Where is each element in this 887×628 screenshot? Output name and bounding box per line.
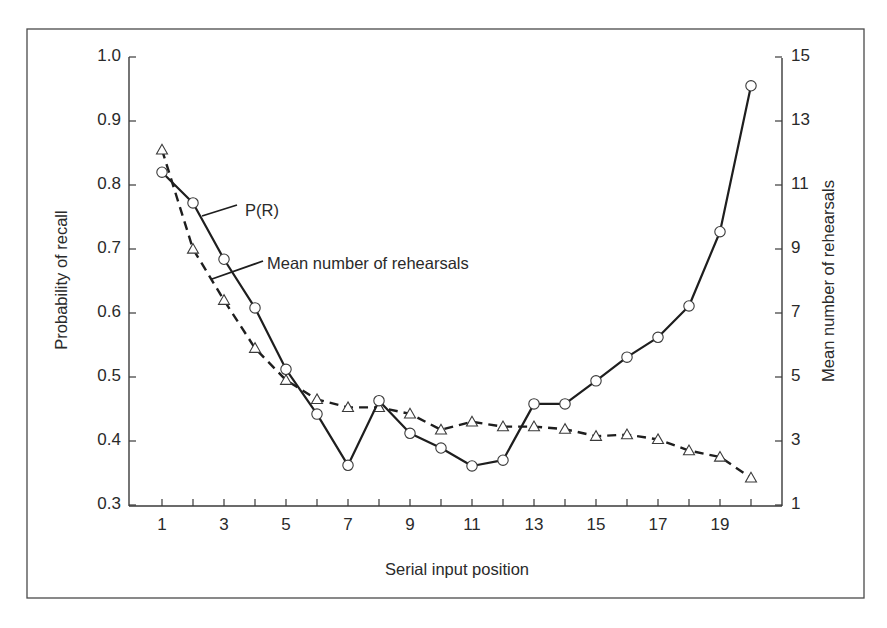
- chart-figure: 0.30.40.50.60.70.80.91.0 13579111315 135…: [0, 0, 887, 628]
- rehearsals-triangle-marker: [312, 394, 323, 404]
- left-y-axis-title: Probability of recall: [52, 210, 70, 349]
- right-y-tick-label: 7: [791, 302, 800, 321]
- left-y-tick-label: 0.9: [97, 110, 121, 129]
- annotations: P(R) Mean number of rehearsals: [202, 201, 469, 279]
- pr-circle-marker: [219, 254, 229, 264]
- right-y-tick-label: 5: [791, 366, 800, 385]
- x-ticks: 135791113151719: [157, 499, 751, 534]
- pr-circle-marker: [498, 455, 508, 465]
- pr-circle-markers: [157, 81, 756, 472]
- pr-annotation: P(R): [245, 201, 279, 219]
- pr-circle-marker: [653, 332, 663, 342]
- right-y-tick-label: 9: [791, 238, 800, 257]
- x-tick-label: 5: [281, 515, 290, 534]
- right-y-tick-label: 13: [791, 110, 810, 129]
- right-y-ticks: 13579111315: [775, 46, 810, 513]
- x-tick-label: 15: [587, 515, 606, 534]
- pr-circle-marker: [684, 301, 694, 311]
- pr-circle-marker: [436, 443, 446, 453]
- rehearsals-triangle-markers: [157, 144, 757, 482]
- pr-circle-marker: [374, 395, 384, 405]
- x-tick-label: 7: [343, 515, 352, 534]
- rehearsals-dashed-line: [162, 150, 751, 478]
- pr-circle-marker: [250, 303, 260, 313]
- pr-circle-marker: [188, 198, 198, 208]
- x-tick-label: 9: [405, 515, 414, 534]
- x-tick-label: 11: [463, 515, 481, 534]
- rehearsals-triangle-marker: [560, 424, 571, 434]
- right-y-tick-label: 3: [791, 430, 800, 449]
- x-tick-label: 3: [219, 515, 228, 534]
- left-y-ticks: 0.30.40.50.60.70.80.91.0: [97, 46, 136, 513]
- left-y-tick-label: 0.8: [97, 174, 121, 193]
- pr-circle-marker: [746, 81, 756, 91]
- x-tick-label: 19: [711, 515, 730, 534]
- x-tick-label: 1: [157, 515, 166, 534]
- rehearsals-triangle-marker: [188, 244, 199, 254]
- rehearsals-leader-line: [212, 261, 263, 279]
- series-probability-recall: [157, 81, 756, 472]
- pr-solid-line: [162, 86, 751, 466]
- left-y-tick-label: 0.3: [97, 494, 121, 513]
- right-y-axis-title: Mean number of rehearsals: [819, 180, 837, 382]
- left-y-tick-label: 0.4: [97, 430, 121, 449]
- left-y-tick-label: 0.5: [97, 366, 121, 385]
- pr-circle-marker: [405, 428, 415, 438]
- rehearsals-triangle-marker: [467, 416, 478, 426]
- pr-circle-marker: [157, 167, 167, 177]
- rehearsals-annotation: Mean number of rehearsals: [267, 254, 469, 272]
- rehearsals-triangle-marker: [157, 144, 168, 154]
- rehearsals-triangle-marker: [746, 472, 757, 482]
- pr-circle-marker: [560, 399, 570, 409]
- left-y-tick-label: 1.0: [97, 46, 121, 65]
- series-mean-rehearsals: [157, 144, 757, 482]
- pr-circle-marker: [343, 460, 353, 470]
- pr-circle-marker: [467, 461, 477, 471]
- right-y-tick-label: 15: [791, 46, 810, 65]
- pr-circle-marker: [622, 352, 632, 362]
- right-y-tick-label: 1: [791, 494, 800, 513]
- x-tick-label: 13: [525, 515, 544, 534]
- x-tick-label: 17: [649, 515, 668, 534]
- pr-circle-marker: [591, 376, 601, 386]
- pr-circle-marker: [281, 364, 291, 374]
- pr-circle-marker: [312, 409, 322, 419]
- axes: [129, 57, 782, 506]
- left-y-tick-label: 0.6: [97, 302, 121, 321]
- pr-leader-line: [202, 205, 237, 216]
- figure-frame: [27, 29, 864, 598]
- pr-circle-marker: [529, 399, 539, 409]
- left-y-tick-label: 0.7: [97, 238, 121, 257]
- pr-circle-marker: [715, 227, 725, 237]
- x-axis-title: Serial input position: [385, 560, 529, 578]
- right-y-tick-label: 11: [791, 174, 809, 193]
